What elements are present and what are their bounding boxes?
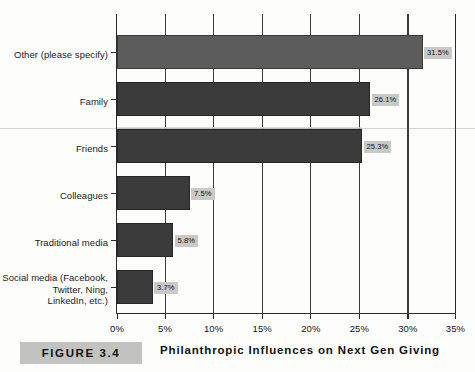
bar-traditional-media <box>117 223 173 257</box>
bar-colleagues <box>117 176 190 210</box>
category-label-traditional-media: Traditional media <box>35 237 108 249</box>
bar-social-media <box>117 270 153 304</box>
figure-number-badge: FIGURE 3.4 <box>20 342 142 364</box>
value-label-colleagues: 7.5% <box>191 188 215 200</box>
tick-stub-family <box>111 99 116 100</box>
xtick-mark-35 <box>455 314 456 319</box>
xtick-label-35: 35% <box>446 323 465 334</box>
xtick-label-10: 10% <box>204 323 223 334</box>
tick-stub-traditional-media <box>111 240 116 241</box>
category-axis-labels: Other (please specify) Family Friends Co… <box>0 14 112 314</box>
tick-stub-friends <box>111 146 116 147</box>
category-label-friends: Friends <box>76 143 108 155</box>
figure-container: Other (please specify) Family Friends Co… <box>0 0 475 372</box>
plot-area: 31.5% 26.1% 25.3% 7.5% 5.8% 3.7% 0% 5% 1… <box>116 14 456 314</box>
value-label-family: 26.1% <box>372 94 400 106</box>
xtick-label-20: 20% <box>301 323 320 334</box>
page-scan-seam <box>0 128 475 129</box>
figure-number-text: FIGURE 3.4 <box>42 347 121 359</box>
bar-family <box>117 82 370 116</box>
xtick-label-15: 15% <box>253 323 272 334</box>
xtick-mark-15 <box>262 314 263 319</box>
xtick-label-30: 30% <box>398 323 417 334</box>
x-axis-line <box>116 313 456 314</box>
xtick-label-25: 25% <box>350 323 369 334</box>
figure-caption: FIGURE 3.4 Philanthropic Influences on N… <box>0 338 475 372</box>
value-label-other: 31.5% <box>424 47 452 59</box>
xtick-label-5: 5% <box>158 323 172 334</box>
figure-title-text: Philanthropic Influences on Next Gen Giv… <box>160 344 440 356</box>
value-label-traditional-media: 5.8% <box>175 235 199 247</box>
xtick-mark-20 <box>310 314 311 319</box>
tick-stub-other <box>111 52 116 53</box>
category-label-family: Family <box>80 96 108 108</box>
tick-stub-colleagues <box>111 193 116 194</box>
gridline-35 <box>455 14 456 314</box>
xtick-mark-25 <box>359 314 360 319</box>
xtick-mark-5 <box>165 314 166 319</box>
xtick-mark-0 <box>117 314 118 319</box>
xtick-mark-30 <box>407 314 408 319</box>
category-label-colleagues: Colleagues <box>60 190 108 202</box>
xtick-mark-10 <box>213 314 214 319</box>
tick-stub-social-media <box>111 287 116 288</box>
category-label-social-media: Social media (Facebook, Twitter, Ning, L… <box>2 272 108 307</box>
bar-other <box>117 35 423 69</box>
xtick-label-0: 0% <box>110 323 124 334</box>
bar-chart: Other (please specify) Family Friends Co… <box>0 0 475 332</box>
bar-friends <box>117 129 362 163</box>
category-label-other: Other (please specify) <box>14 49 108 61</box>
value-label-friends: 25.3% <box>364 141 392 153</box>
value-label-social-media: 3.7% <box>154 282 178 294</box>
